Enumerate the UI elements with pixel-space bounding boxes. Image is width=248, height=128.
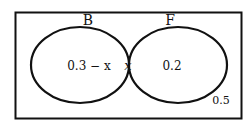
- region-intersection: x: [124, 58, 132, 73]
- region-b-only: 0.3 − x: [67, 59, 111, 73]
- region-outside: 0.5: [212, 94, 230, 107]
- set-b-label: B: [83, 12, 93, 28]
- set-f-label: F: [165, 12, 175, 28]
- region-f-only: 0.2: [162, 59, 181, 73]
- venn-diagram: B F 0.3 − x x 0.2 0.5: [0, 0, 248, 128]
